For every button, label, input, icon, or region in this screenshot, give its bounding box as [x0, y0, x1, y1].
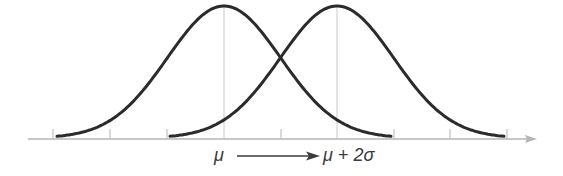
normal-shift-diagram — [0, 0, 563, 176]
axis-ticks — [53, 129, 507, 139]
mean-label-mu: μ — [214, 145, 224, 166]
mean-label-mu-plus-2-sigma: μ + 2σ — [323, 145, 374, 166]
